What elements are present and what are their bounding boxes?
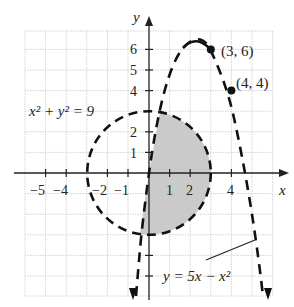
point-3-6 [207, 45, 215, 53]
parabola-label-pointer [206, 240, 255, 260]
x-tick-neg5: −5 [30, 183, 45, 198]
graph: y x 6 5 4 2 1 −5 −4 −2 −1 1 2 4 x² + y² … [0, 0, 294, 307]
x-tick-1: 1 [166, 183, 173, 198]
x-tick-neg4: −4 [53, 183, 68, 198]
point-4-4 [227, 87, 235, 95]
x-tick-2: 2 [186, 183, 193, 198]
y-axis-arrow-icon [145, 16, 153, 26]
y-tick-4: 4 [130, 84, 137, 99]
y-tick-5: 5 [130, 63, 137, 78]
axes [14, 22, 283, 300]
x-axis-label: x [278, 182, 286, 198]
point-label-4-4: (4, 4) [236, 75, 269, 92]
x-tick-neg1: −1 [114, 183, 129, 198]
x-tick-neg2: −2 [92, 183, 107, 198]
parabola-right-arrow-icon [264, 288, 272, 300]
circle-equation-label: x² + y² = 9 [28, 103, 95, 119]
y-tick-2: 2 [130, 125, 137, 140]
y-tick-6: 6 [130, 42, 137, 57]
x-tick-4: 4 [227, 183, 234, 198]
x-axis-arrow-icon [279, 169, 289, 177]
parabola-equation-label: y = 5x − x² [161, 268, 231, 284]
y-tick-1: 1 [130, 146, 137, 161]
point-label-3-6: (3, 6) [221, 43, 254, 60]
y-axis-label: y [131, 9, 140, 25]
